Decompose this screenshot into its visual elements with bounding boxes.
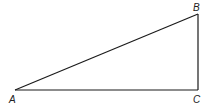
vertex-label-c: C (193, 94, 201, 105)
vertex-label-b: B (193, 2, 200, 13)
side-ab (15, 14, 198, 90)
vertex-label-a: A (8, 94, 16, 105)
triangle-diagram: A B C (0, 0, 208, 110)
